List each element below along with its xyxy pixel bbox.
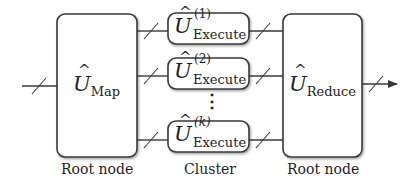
ellipsis-vertical: ⋮ [203,90,221,111]
cluster-caption: Cluster [184,161,236,177]
execute-2-operator-label: ^U (2) Execute [174,59,248,89]
execute-to-reduce-wires [249,23,283,148]
reduce-caption: Root node [287,161,359,177]
diagram-canvas: ^UMap ^U (1) Execute ^U (2) Execute ⋮ ^U… [0,0,415,186]
reduce-operator-label: ^UReduce [289,72,356,96]
map-operator-label: ^UMap [73,72,120,96]
output-wire [362,76,397,92]
execute-k-operator-label: ^U (k) Execute [174,122,248,152]
map-to-execute-wires [137,23,168,148]
input-wire [22,78,57,94]
execute-1-operator-label: ^U (1) Execute [174,14,248,44]
map-caption: Root node [61,161,133,177]
